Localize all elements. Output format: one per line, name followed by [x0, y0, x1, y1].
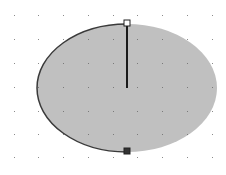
grid-dot: [14, 15, 15, 16]
grid-dot: [212, 87, 213, 88]
grid-dot: [63, 111, 64, 112]
grid-dot: [162, 63, 163, 64]
grid-dot: [162, 157, 163, 158]
grid-dot: [38, 39, 39, 40]
grid-dot: [187, 63, 188, 64]
bottom-handle[interactable]: [124, 148, 130, 154]
grid-dot: [63, 157, 64, 158]
top-handle[interactable]: [124, 20, 130, 26]
grid-dot: [113, 111, 114, 112]
grid-dot: [137, 157, 138, 158]
grid-dot: [137, 87, 138, 88]
grid-dot: [38, 157, 39, 158]
grid-dot: [162, 134, 163, 135]
grid-dot: [187, 15, 188, 16]
grid-dot: [212, 39, 213, 40]
drawing-canvas[interactable]: [0, 0, 226, 175]
grid-dot: [113, 15, 114, 16]
grid-dot: [63, 39, 64, 40]
grid-dot: [113, 39, 114, 40]
grid-dot: [63, 15, 64, 16]
grid-dot: [113, 87, 114, 88]
grid-dot: [14, 134, 15, 135]
grid-dot: [14, 111, 15, 112]
grid-dot: [113, 63, 114, 64]
grid-dot: [88, 134, 89, 135]
grid-dot: [162, 87, 163, 88]
grid-dot: [88, 157, 89, 158]
grid-dot: [38, 87, 39, 88]
grid-dot: [88, 39, 89, 40]
grid-dot: [212, 157, 213, 158]
grid-dot: [137, 39, 138, 40]
grid-dot: [63, 63, 64, 64]
grid-dot: [162, 15, 163, 16]
grid-dot: [38, 63, 39, 64]
grid-dot: [187, 134, 188, 135]
grid-dot: [162, 111, 163, 112]
grid-dot: [113, 157, 114, 158]
grid-dot: [212, 111, 213, 112]
grid-dot: [187, 87, 188, 88]
grid-dot: [14, 39, 15, 40]
grid-dot: [212, 63, 213, 64]
grid-dot: [187, 39, 188, 40]
grid-dot: [137, 111, 138, 112]
grid-dot: [187, 111, 188, 112]
grid-dot: [162, 39, 163, 40]
grid-dot: [137, 63, 138, 64]
grid-dot: [38, 15, 39, 16]
grid-dot: [14, 87, 15, 88]
grid-dot: [88, 63, 89, 64]
grid-dot: [187, 157, 188, 158]
grid-dot: [38, 111, 39, 112]
grid-dot: [14, 63, 15, 64]
grid-dot: [14, 157, 15, 158]
grid-dot: [63, 87, 64, 88]
grid-dot: [88, 15, 89, 16]
grid-dot: [113, 134, 114, 135]
grid-dot: [212, 15, 213, 16]
grid-dot: [88, 111, 89, 112]
grid-dot: [212, 134, 213, 135]
grid-dot: [88, 87, 89, 88]
grid-dot: [38, 134, 39, 135]
grid-dot: [137, 134, 138, 135]
grid-dot: [137, 15, 138, 16]
